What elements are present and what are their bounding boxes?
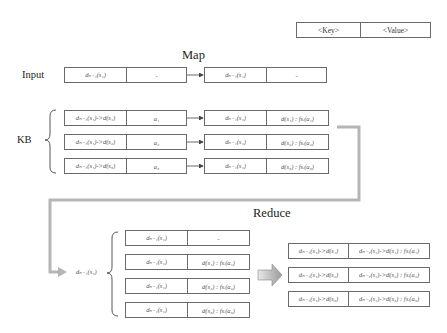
group-value: d(s₃) : fsᵢ(a₃) <box>188 303 249 317</box>
reduce-output-row-3: dₙ₋₁(s₁)->d(s₃) dₙ₋₁(s₁)->d(s₃) : fsᵢ(a₃… <box>288 291 430 307</box>
map-output-pair-input: dₙ₋₁(s₁) - <box>204 67 327 83</box>
reduce-output-key: dₙ₋₁(s₁)->d(s₂) <box>289 268 349 282</box>
reduce-title: Reduce <box>253 206 290 221</box>
kb-pair-1: dₙ₋₁(s₁)->d(s₁) a₁ <box>64 110 187 126</box>
output-value: - <box>267 68 326 82</box>
output-key: dₙ₋₁(s₁) <box>205 111 267 125</box>
map-output-pair-3: dₙ₋₁(s₁) d(s₃) : fsᵢ(a₃) <box>204 158 329 174</box>
output-key: dₙ₋₁(s₁) <box>205 68 267 82</box>
reduce-output-key: dₙ₋₁(s₁)->d(s₃) <box>289 292 349 306</box>
kb-brace-icon <box>45 110 56 173</box>
group-value: d(s₁) : fsᵢ(a₁) <box>188 255 249 269</box>
output-value: d(s₃) : fsᵢ(a₃) <box>267 159 328 173</box>
reduce-output-value: dₙ₋₁(s₁)->d(s₂) : fsᵢ(a₂) <box>349 268 429 282</box>
group-key: dₙ₋₁(s₁) <box>126 231 188 245</box>
kb-value: a₂ <box>127 135 186 149</box>
legend: <Key> <Value> <box>296 22 431 38</box>
kb-key: dₙ₋₁(s₁)->d(s₂) <box>65 135 127 149</box>
map-title: Map <box>182 48 205 63</box>
reduce-output-value: dₙ₋₁(s₁)->d(s₁) : fsᵢ(a₁) <box>349 244 429 258</box>
output-key: dₙ₋₁(s₁) <box>205 159 267 173</box>
legend-key: <Key> <box>297 23 361 37</box>
group-key: dₙ₋₁(s₁) <box>126 255 188 269</box>
reduce-output-row-2: dₙ₋₁(s₁)->d(s₂) dₙ₋₁(s₁)->d(s₂) : fsᵢ(a₂… <box>288 267 430 283</box>
map-output-pair-2: dₙ₋₁(s₁) d(s₂) : fsᵢ(a₂) <box>204 134 329 150</box>
kb-value: a₁ <box>127 111 186 125</box>
reduce-group-row-4: dₙ₋₁(s₁) d(s₃) : fsᵢ(a₃) <box>125 302 250 318</box>
reduce-output-value: dₙ₋₁(s₁)->d(s₃) : fsᵢ(a₃) <box>349 292 429 306</box>
group-key: dₙ₋₁(s₁) <box>126 279 188 293</box>
reduce-group-row-1: dₙ₋₁(s₁) - <box>125 230 250 246</box>
kb-label: KB <box>17 134 32 145</box>
input-label: Input <box>22 69 44 80</box>
reduce-output-arrow-icon <box>258 264 282 286</box>
kb-key: dₙ₋₁(s₁)->d(s₃) <box>65 159 127 173</box>
reduce-output-key: dₙ₋₁(s₁)->d(s₁) <box>289 244 349 258</box>
input-value: - <box>127 68 186 82</box>
kb-value: a₃ <box>127 159 186 173</box>
map-input-pair: dₙ₋₁(s₁) - <box>64 67 187 83</box>
kb-pair-2: dₙ₋₁(s₁)->d(s₂) a₂ <box>64 134 187 150</box>
kb-key: dₙ₋₁(s₁)->d(s₁) <box>65 111 127 125</box>
reduce-group-key: dₙ₋₁(s₁) <box>76 268 97 276</box>
reduce-group-row-2: dₙ₋₁(s₁) d(s₁) : fsᵢ(a₁) <box>125 254 250 270</box>
map-output-pair-1: dₙ₋₁(s₁) d(s₁) : fsᵢ(a₁) <box>204 110 329 126</box>
output-value: d(s₁) : fsᵢ(a₁) <box>267 111 328 125</box>
kb-pair-3: dₙ₋₁(s₁)->d(s₃) a₃ <box>64 158 187 174</box>
input-key: dₙ₋₁(s₁) <box>65 68 127 82</box>
reduce-output-row-1: dₙ₋₁(s₁)->d(s₁) dₙ₋₁(s₁)->d(s₁) : fsᵢ(a₁… <box>288 243 430 259</box>
output-key: dₙ₋₁(s₁) <box>205 135 267 149</box>
group-key: dₙ₋₁(s₁) <box>126 303 188 317</box>
reduce-group-row-3: dₙ₋₁(s₁) d(s₂) : fsᵢ(a₂) <box>125 278 250 294</box>
output-value: d(s₂) : fsᵢ(a₂) <box>267 135 328 149</box>
group-value: - <box>188 231 249 245</box>
reduce-brace-icon <box>107 232 118 316</box>
legend-value: <Value> <box>361 23 430 37</box>
group-value: d(s₂) : fsᵢ(a₂) <box>188 279 249 293</box>
